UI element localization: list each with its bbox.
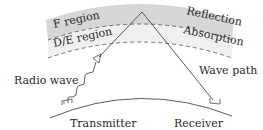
ionosphere-diagram: F region D/E region Reflection Absorptio… [0, 0, 263, 130]
diagram-svg: F region D/E region Reflection Absorptio… [0, 0, 263, 130]
earth-surface [50, 98, 232, 118]
wave-path-label: Wave path [199, 64, 257, 77]
receiver-label: Receiver [174, 117, 224, 130]
transmitter-label: Transmitter [70, 117, 137, 130]
receiver-antenna-icon [210, 98, 220, 104]
radio-wave-arrowhead [93, 54, 101, 63]
transmitter-antenna-icon [62, 99, 72, 105]
radio-wave-label: Radio wave [14, 74, 78, 87]
